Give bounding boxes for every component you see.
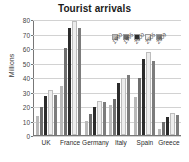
bar [97, 101, 102, 135]
bar [138, 78, 141, 135]
bar [72, 21, 77, 135]
tourist-arrivals-chart: Tourist arrivals Millions 01020304050607… [0, 0, 189, 162]
bar [166, 117, 169, 135]
x-tick-label: Germany [82, 139, 109, 151]
bar [40, 107, 43, 135]
bar [48, 90, 53, 135]
y-tick-label: 50 [23, 60, 30, 67]
y-tick-label: 80 [23, 17, 30, 24]
x-axis-tick-labels: UKFranceGermanyItalySpainGreece [34, 139, 181, 151]
y-tick-mark [31, 64, 33, 65]
bar [146, 52, 151, 135]
y-tick-label: 10 [23, 118, 30, 125]
y-tick-mark [31, 122, 33, 123]
bar [85, 121, 88, 136]
bar [127, 75, 130, 135]
bar [142, 59, 145, 135]
y-tick-mark [31, 136, 33, 137]
y-tick-mark [31, 107, 33, 108]
bar [176, 115, 179, 135]
y-tick-mark [31, 35, 33, 36]
bar [113, 99, 116, 135]
y-tick-label: 30 [23, 89, 30, 96]
gridline [33, 136, 181, 137]
bar [158, 129, 161, 135]
x-tick-label: France [58, 139, 82, 151]
legend-item: 2009 [156, 34, 162, 40]
bar [44, 96, 47, 135]
bar [121, 78, 126, 135]
bar [93, 107, 96, 135]
bar [117, 83, 120, 135]
bar [134, 97, 137, 135]
bar [78, 28, 81, 135]
y-tick-mark [31, 78, 33, 79]
bar-group [59, 20, 84, 135]
legend-item: 2005 [145, 34, 151, 40]
legend: 19901995200020052009 [112, 34, 174, 60]
legend-item: 1990 [112, 34, 118, 40]
y-axis-label: Millions [8, 38, 15, 94]
bar [64, 48, 67, 135]
bar [60, 86, 63, 135]
y-tick-label: 0 [26, 133, 30, 140]
x-tick-label: Italy [109, 139, 133, 151]
bar [89, 114, 92, 135]
y-tick-label: 20 [23, 104, 30, 111]
y-tick-mark [31, 93, 33, 94]
bar-group [34, 20, 59, 135]
legend-item: 1995 [123, 34, 129, 40]
chart-title: Tourist arrivals [0, 3, 189, 14]
bar [36, 116, 39, 135]
bar [54, 95, 57, 135]
bar [162, 122, 165, 135]
bar [170, 113, 175, 135]
bar [109, 105, 112, 135]
y-tick-mark [31, 49, 33, 50]
bar [152, 61, 155, 135]
x-tick-label: UK [34, 139, 58, 151]
x-tick-label: Spain [133, 139, 157, 151]
y-tick-label: 70 [23, 31, 30, 38]
bar-group [83, 20, 108, 135]
bar [103, 102, 106, 135]
bar [68, 28, 71, 135]
y-tick-label: 40 [23, 75, 30, 82]
x-tick-label: Greece [157, 139, 181, 151]
legend-item: 2000 [134, 34, 140, 40]
y-tick-mark [31, 20, 33, 21]
y-tick-label: 60 [23, 46, 30, 53]
